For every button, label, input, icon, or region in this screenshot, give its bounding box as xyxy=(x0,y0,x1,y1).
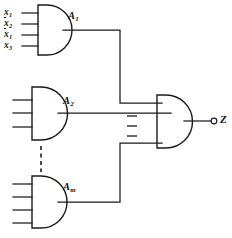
gate-am-label-base: A xyxy=(63,181,70,192)
gate-am-group xyxy=(13,143,162,228)
gate-am-label-subscript: m xyxy=(70,186,75,193)
gate-a2-label-base: A xyxy=(63,95,70,106)
logic-diagram-canvas xyxy=(0,0,232,238)
input-label-1: x1 xyxy=(4,8,12,18)
input-label-3-subscript: 1 xyxy=(9,33,12,40)
input-label-1-subscript: 1 xyxy=(9,11,12,18)
input-label-4-subscript: 3 xyxy=(9,44,12,51)
gate-a1-label-base: A xyxy=(68,10,75,21)
gate-a2-label: A2 xyxy=(63,96,73,107)
output-label: Z xyxy=(220,114,227,125)
output-label-text: Z xyxy=(220,113,227,125)
input-label-2: x2 xyxy=(4,19,12,29)
logic-diagram-figure: x1 x2 x1 x3 A1 A2 Am Z xyxy=(0,0,232,238)
gate-am-label: Am xyxy=(63,182,75,193)
gate-am-output-wire xyxy=(58,143,162,202)
gate-a1-label: A1 xyxy=(68,11,78,22)
gate-a1-output-wire xyxy=(63,30,162,103)
gate-a2-group xyxy=(13,87,171,140)
gate-a1-group xyxy=(22,5,162,103)
gate-output-group xyxy=(157,95,217,148)
output-terminal-circle xyxy=(211,118,217,124)
gate-a1-label-subscript: 1 xyxy=(75,15,78,22)
input-label-3: x1 xyxy=(4,30,12,40)
input-label-4: x3 xyxy=(4,41,12,51)
input-label-2-subscript: 2 xyxy=(9,22,12,29)
gate-a2-label-subscript: 2 xyxy=(70,100,73,107)
ellipsis-dots-group xyxy=(127,116,137,136)
